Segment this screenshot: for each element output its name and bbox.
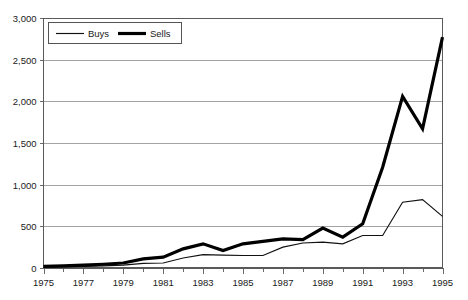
y-tick-label: 1,000 (13, 180, 37, 191)
x-tick-label: 1983 (193, 277, 214, 288)
legend-label-buys: Buys (88, 28, 109, 39)
x-tick-label: 1989 (312, 277, 333, 288)
y-tick-label: 0 (31, 263, 36, 274)
x-tick-label: 1993 (392, 277, 413, 288)
x-tick-label: 1975 (33, 277, 54, 288)
x-tick-label: 1985 (232, 277, 253, 288)
y-tick-label: 500 (21, 221, 37, 232)
x-tick-label: 1995 (432, 277, 453, 288)
legend-label-sells: Sells (150, 28, 171, 39)
y-tick-label: 2,500 (13, 55, 37, 66)
y-tick-label: 2,000 (13, 96, 37, 107)
chart-canvas: 05001,0001,5002,0002,5003,000 1975197719… (0, 0, 468, 300)
x-tick-label: 1977 (73, 277, 94, 288)
chart-legend[interactable]: Buys Sells (49, 23, 182, 44)
x-tick-label: 1987 (272, 277, 293, 288)
y-tick-label: 1,500 (13, 138, 37, 149)
line-chart-figure: 05001,0001,5002,0002,5003,000 1975197719… (0, 0, 468, 300)
x-tick-label: 1979 (113, 277, 134, 288)
x-tick-label: 1981 (153, 277, 174, 288)
y-tick-label: 3,000 (13, 13, 37, 24)
x-tick-label: 1991 (352, 277, 373, 288)
